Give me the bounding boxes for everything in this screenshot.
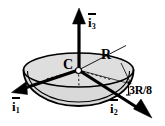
radius-label: R: [101, 48, 111, 62]
offset-label: 3R/8: [129, 84, 152, 96]
center-label: C: [63, 58, 73, 72]
vector-overbar-i3: [88, 13, 96, 15]
hemisphere-figure: i3 i1 i2 C R 3R/8: [0, 0, 165, 126]
vector-overbar-i1: [12, 97, 20, 99]
axis-label-i2: i2: [110, 102, 118, 115]
axis-label-i3: i3: [88, 16, 96, 29]
axis-label-i1: i1: [12, 100, 20, 113]
diagram-canvas: [0, 0, 165, 126]
axis-label-i2-subscript: 2: [114, 108, 118, 117]
center-of-mass-marker: [76, 68, 82, 74]
axis-label-i3-subscript: 3: [92, 22, 96, 31]
axis-label-i1-subscript: 1: [16, 106, 20, 115]
vector-overbar-i2: [110, 99, 118, 101]
